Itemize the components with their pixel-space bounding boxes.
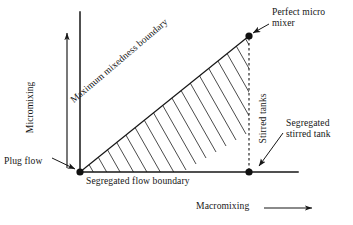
diagram-canvas	[0, 0, 353, 225]
maximum-mixedness-boundary-line	[80, 36, 249, 172]
hatched-region	[56, 22, 286, 218]
stirred-tanks-label: Stirred tanks	[258, 87, 269, 149]
plug-flow-leader-arrow	[52, 158, 75, 169]
perfect-micro-mixer-point-marker	[245, 32, 252, 39]
plug-flow-point-marker	[76, 168, 83, 175]
perfect-micro-mixer-leader-arrow	[253, 24, 269, 33]
segregated-stirred-tank-point-marker	[245, 168, 252, 175]
macromixing-axis-label: Macromixing	[196, 201, 249, 212]
plug-flow-label: Plug flow	[4, 156, 42, 167]
segregated-stirred-tank-label: Segregated stirred tank	[286, 118, 352, 139]
micromixing-axis-label: Micromixing	[25, 59, 36, 155]
segregated-flow-boundary-label: Segregated flow boundary	[86, 176, 190, 187]
mixing-regime-diagram: Plug flow Perfect micro mixer Segregated…	[0, 0, 353, 225]
perfect-micro-mixer-label: Perfect micro mixer	[272, 7, 350, 28]
